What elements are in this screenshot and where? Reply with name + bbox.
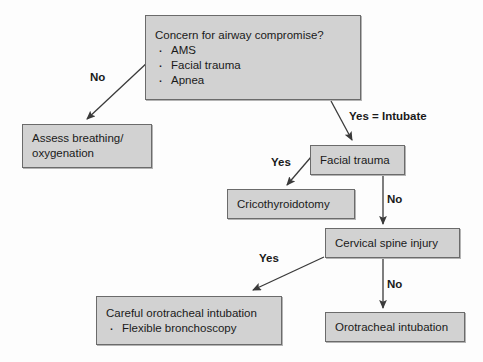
node-concern-bullet-2: Facial trauma <box>155 58 360 73</box>
node-concern-bullet-3: Apnea <box>155 73 360 88</box>
edge-label-no-facial-to-cspine: No <box>387 193 402 206</box>
node-cricothyroidotomy-title: Cricothyroidotomy <box>228 197 354 212</box>
node-orotracheal-intubation-title: Orotracheal intubation <box>326 320 464 335</box>
flowchart-canvas: Concern for airway compromise? AMS Facia… <box>0 0 483 362</box>
node-cervical-spine-injury: Cervical spine injury <box>325 228 460 258</box>
node-careful-orotracheal-intubation: Careful orotracheal intubation Flexible … <box>96 296 282 345</box>
edge-label-no-cspine-to-oro: No <box>387 278 402 291</box>
node-concern-bullets: AMS Facial trauma Apnea <box>146 43 360 88</box>
node-careful-bullets: Flexible bronchoscopy <box>97 321 281 336</box>
node-concern-bullet-1: AMS <box>155 43 360 58</box>
edge-label-yes-intubate: Yes = Intubate <box>349 110 427 123</box>
node-concern-for-airway-compromise: Concern for airway compromise? AMS Facia… <box>145 15 361 100</box>
edge-label-yes-cspine-to-careful: Yes <box>259 252 279 265</box>
node-assess-title-line1: Assess breathing/ <box>23 131 151 146</box>
node-assess-title-line2: oxygenation <box>23 146 151 161</box>
node-facial-trauma: Facial trauma <box>310 145 405 175</box>
node-concern-title: Concern for airway compromise? <box>146 28 360 43</box>
edge-label-yes-facial-to-crico: Yes <box>271 156 291 169</box>
node-orotracheal-intubation: Orotracheal intubation <box>325 312 465 342</box>
node-cricothyroidotomy: Cricothyroidotomy <box>227 189 355 219</box>
node-assess-breathing-oxygenation: Assess breathing/ oxygenation <box>22 124 152 168</box>
node-careful-bullet-1: Flexible bronchoscopy <box>106 321 281 336</box>
node-careful-title: Careful orotracheal intubation <box>97 306 281 321</box>
node-cervical-spine-injury-title: Cervical spine injury <box>326 236 459 251</box>
edge-label-no-concern-to-assess: No <box>90 71 105 84</box>
edge-concern-to-assess <box>87 61 149 119</box>
node-facial-trauma-title: Facial trauma <box>311 153 404 168</box>
